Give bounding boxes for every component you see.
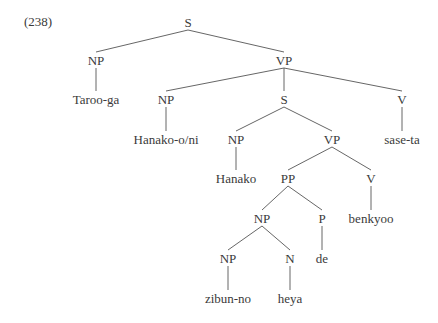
- tree-node-zibunno: zibun-no: [205, 291, 251, 306]
- tree-edge: [288, 147, 332, 170]
- tree-edge: [262, 186, 288, 210]
- tree-edge: [96, 30, 188, 52]
- tree-node-saseta: sase-ta: [384, 132, 419, 147]
- tree-node-p: P: [318, 211, 325, 226]
- tree-node-v1: V: [397, 92, 406, 107]
- tree-edge: [284, 107, 332, 131]
- tree-edge: [236, 107, 284, 131]
- tree-node-np4: NP: [254, 211, 271, 226]
- tree-node-pp: PP: [281, 171, 295, 186]
- tree-node-vp1: VP: [276, 53, 293, 68]
- tree-node-de: de: [316, 251, 328, 266]
- tree-node-np5: NP: [220, 251, 237, 266]
- tree-node-taroo: Taroo-ga: [73, 92, 120, 107]
- tree-node-n: N: [285, 251, 294, 266]
- tree-node-s1: S: [184, 15, 191, 30]
- tree-edge: [166, 68, 284, 91]
- tree-edge: [332, 147, 371, 170]
- syntax-tree-edges: [0, 0, 438, 323]
- tree-node-hanako: Hanako: [216, 171, 256, 186]
- tree-node-hanakooni: Hanako-o/ni: [134, 132, 199, 147]
- tree-node-s2: S: [280, 92, 287, 107]
- tree-edge: [262, 226, 290, 250]
- tree-edge: [188, 30, 284, 52]
- tree-edge: [228, 226, 262, 250]
- tree-edge: [288, 186, 322, 210]
- tree-node-np3: NP: [228, 132, 245, 147]
- tree-node-v2: V: [366, 171, 375, 186]
- tree-node-np1: NP: [88, 53, 105, 68]
- tree-edge: [284, 68, 402, 91]
- tree-node-vp2: VP: [324, 132, 341, 147]
- tree-node-benkyoo: benkyoo: [349, 211, 394, 226]
- tree-node-heya: heya: [278, 291, 303, 306]
- tree-node-np2: NP: [158, 92, 175, 107]
